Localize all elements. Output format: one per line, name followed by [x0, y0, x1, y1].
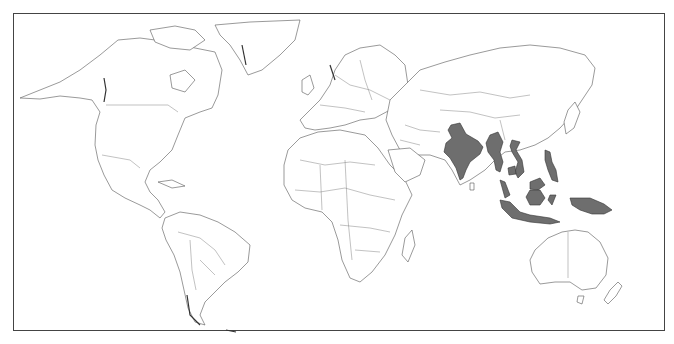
- south-america: [162, 212, 250, 325]
- north-america: [20, 20, 300, 218]
- country-cambodia[interactable]: [508, 166, 516, 175]
- country-indonesia-borneo[interactable]: [526, 190, 545, 205]
- country-malaysia-borneo[interactable]: [530, 178, 545, 190]
- country-papua[interactable]: [570, 198, 612, 214]
- country-indonesia-sulawesi[interactable]: [548, 195, 556, 205]
- antarctic-coast: [226, 330, 236, 332]
- australia: [530, 230, 622, 304]
- world-map: [0, 0, 674, 344]
- asia: [386, 45, 595, 190]
- country-philippines[interactable]: [545, 150, 558, 182]
- country-malaysia-peninsular[interactable]: [500, 180, 510, 198]
